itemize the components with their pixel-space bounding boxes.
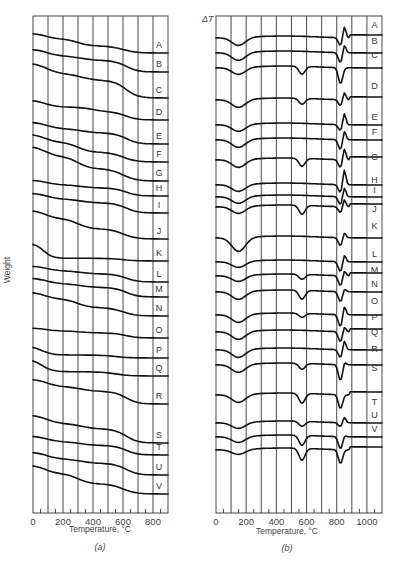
curve-label-a-u: U xyxy=(156,462,163,472)
curve-label-b-s: S xyxy=(371,363,377,373)
curve-label-b-t: T xyxy=(372,397,378,407)
curve-label-b-c: C xyxy=(371,50,378,60)
curve-label-b-r: R xyxy=(371,344,378,354)
curve-b-h xyxy=(216,170,382,192)
curve-label-b-o: O xyxy=(371,296,378,306)
panel-b-xlabel: Temperature, °C xyxy=(256,526,318,536)
curve-label-b-k: K xyxy=(371,221,377,231)
curve-b-g xyxy=(216,149,382,167)
panel-b-ylabel: ΔT xyxy=(201,14,215,24)
panel-a-frame xyxy=(33,16,168,513)
curve-label-b-u: U xyxy=(371,410,378,420)
curve-label-a-o: O xyxy=(155,325,162,335)
curve-b-v xyxy=(216,447,382,463)
curve-label-a-l: L xyxy=(156,269,161,279)
curve-label-a-h: H xyxy=(156,183,163,193)
curve-a-j xyxy=(33,211,168,239)
curve-b-f xyxy=(216,132,382,149)
curve-label-b-p: P xyxy=(371,312,377,322)
curve-b-t xyxy=(216,418,382,429)
curve-label-a-j: J xyxy=(157,226,162,236)
curve-label-a-r: R xyxy=(156,391,163,401)
panel-b-tick: 200 xyxy=(238,516,254,527)
panel-b-caption: (b) xyxy=(282,543,293,553)
panel-b-tick: 800 xyxy=(329,516,345,527)
curve-b-m xyxy=(216,272,382,285)
panel-a-caption: (a) xyxy=(95,542,106,552)
curve-label-b-i: I xyxy=(373,185,376,195)
curve-b-c xyxy=(216,66,382,83)
curve-b-p xyxy=(216,328,382,341)
panel-a-xlabel: Temperature, °C xyxy=(69,524,131,534)
curve-label-b-a: A xyxy=(371,20,377,30)
curve-label-a-m: M xyxy=(155,284,163,294)
curve-label-b-g: G xyxy=(371,152,378,162)
panel-b-frame xyxy=(216,16,382,513)
curve-label-a-d: D xyxy=(156,107,163,117)
curve-label-a-f: F xyxy=(156,149,162,159)
curve-a-s xyxy=(33,416,168,443)
curve-b-n xyxy=(216,290,382,301)
curve-b-r xyxy=(216,363,382,380)
curve-a-a xyxy=(33,34,168,53)
curve-label-b-l: L xyxy=(372,249,377,259)
curve-label-a-c: C xyxy=(156,85,163,95)
curve-b-u xyxy=(216,435,382,448)
curve-label-a-k: K xyxy=(156,248,162,258)
curve-b-o xyxy=(216,307,382,326)
curve-b-a xyxy=(216,27,382,45)
curve-b-b xyxy=(216,46,382,62)
curve-a-o xyxy=(33,328,168,338)
panel-a-weight-chart: 0200400600800ABCDEFGHIJKLMNOPQRSTUV xyxy=(30,16,168,527)
curve-b-e xyxy=(216,114,382,131)
curve-label-b-h: H xyxy=(371,175,378,185)
curve-b-s xyxy=(216,392,382,408)
curve-a-l xyxy=(33,267,168,283)
curve-label-a-g: G xyxy=(155,168,162,178)
panel-a-tick: 0 xyxy=(30,516,35,527)
curve-label-a-p: P xyxy=(156,345,162,355)
tga-dta-figure: 0200400600800ABCDEFGHIJKLMNOPQRSTUV 0200… xyxy=(0,0,394,565)
curve-label-b-f: F xyxy=(372,127,378,137)
curve-label-b-v: V xyxy=(371,424,377,434)
curve-b-l xyxy=(216,256,382,271)
curve-a-r xyxy=(33,380,168,404)
panel-b-tick: 1000 xyxy=(356,516,377,527)
curve-label-b-n: N xyxy=(371,279,378,289)
curve-label-b-m: M xyxy=(371,265,379,275)
curve-a-p xyxy=(33,347,168,358)
curve-label-a-q: Q xyxy=(155,363,162,373)
curve-a-v xyxy=(33,466,168,494)
curve-b-q xyxy=(216,341,382,357)
curve-label-a-a: A xyxy=(156,40,162,50)
curve-a-c xyxy=(33,64,168,98)
panel-b-dta-chart: 02004006008001000ABCDEFGHIJKLMNOPQRSTUV xyxy=(213,16,382,527)
curve-a-t xyxy=(33,437,168,456)
curve-label-b-q: Q xyxy=(371,327,378,337)
curve-label-a-v: V xyxy=(156,481,162,491)
panel-b-tick: 0 xyxy=(213,516,218,527)
curve-label-b-e: E xyxy=(371,112,377,122)
curve-a-h xyxy=(33,181,168,197)
panel-a-ylabel: Weight xyxy=(2,256,12,283)
curve-b-d xyxy=(216,93,382,108)
curve-label-a-n: N xyxy=(156,303,163,313)
curve-a-k xyxy=(33,244,168,261)
curve-label-b-b: B xyxy=(371,36,377,46)
curve-label-b-d: D xyxy=(371,81,378,91)
curve-label-b-j: J xyxy=(372,204,377,214)
curve-a-f xyxy=(33,135,168,162)
curve-label-a-e: E xyxy=(156,131,162,141)
curve-label-a-s: S xyxy=(156,430,162,440)
curve-a-d xyxy=(33,101,168,120)
curve-b-k xyxy=(216,233,382,251)
curve-label-a-b: B xyxy=(156,59,162,69)
panel-a-tick: 800 xyxy=(145,516,161,527)
curve-a-q xyxy=(33,361,168,376)
curve-label-a-t: T xyxy=(156,442,162,452)
curve-label-a-i: I xyxy=(158,200,161,210)
